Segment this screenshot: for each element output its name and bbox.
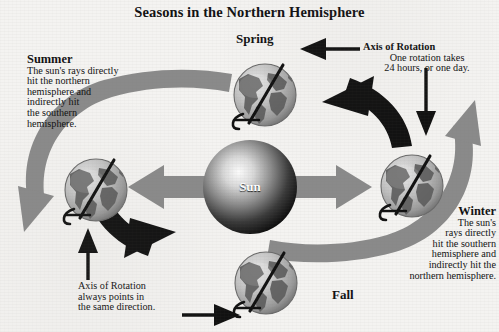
- sun-label: Sun: [203, 140, 297, 234]
- callout-axis-bottom: Axis of Rotation always points in the sa…: [78, 281, 208, 313]
- callout-winter-line-2: rays directly: [445, 227, 496, 238]
- callout-axis-top-line-3: 24 hours, or one day.: [363, 63, 491, 74]
- callout-axis-top-heading: Axis of Rotation: [363, 41, 435, 52]
- season-label-spring: Spring: [236, 31, 274, 47]
- callout-axis-bottom-line-2: always points in: [78, 291, 144, 302]
- season-label-fall: Fall: [332, 287, 354, 303]
- callout-winter-line-3: hit the southern: [433, 238, 496, 249]
- callout-summer: Summer The sun's rays directly hit the n…: [27, 54, 131, 129]
- pointer-arrow-up-icon: [78, 228, 98, 280]
- callout-winter-line-1: The sun's: [458, 217, 496, 228]
- callout-summer-line-2: hit the northern: [27, 75, 90, 86]
- sun-body: Sun: [203, 140, 297, 234]
- callout-summer-line-4: indirectly hit: [27, 96, 79, 107]
- callout-summer-line-6: hemisphere.: [27, 118, 77, 129]
- pointer-arrow-icon: [300, 38, 360, 60]
- callout-summer-line-5: the southern: [27, 107, 77, 118]
- globe-fall: [234, 252, 297, 317]
- callout-winter-line-4: hemisphere and: [432, 248, 496, 259]
- globe-spring: [233, 64, 296, 129]
- callout-winter-line-6: northern hemisphere.: [409, 270, 496, 281]
- callout-axis-bottom-line-1: Axis of Rotation: [78, 280, 146, 291]
- callout-axis-top: Axis of Rotation One rotation takes 24 h…: [363, 42, 499, 74]
- callout-axis-bottom-line-3: the same direction.: [78, 301, 155, 312]
- pointer-arrow-down-icon: [416, 68, 436, 136]
- callout-summer-line-3: hemisphere and: [27, 86, 91, 97]
- page-title: Seasons in the Northern Hemisphere: [0, 4, 499, 21]
- diagram-canvas: Sun Seasons in the Northern Hemisphere S…: [0, 0, 499, 332]
- callout-winter-line-5: indirectly hit the: [429, 259, 496, 270]
- callout-summer-line-1: The sun's rays directly: [27, 65, 119, 76]
- callout-winter: Winter The sun's rays directly hit the s…: [370, 206, 496, 281]
